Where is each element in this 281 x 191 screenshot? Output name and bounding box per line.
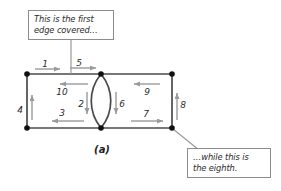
callout-first-edge: This is the first edge covered…: [28, 10, 114, 40]
panel-label: (a): [94, 144, 110, 155]
edge-label-5: 5: [76, 59, 82, 68]
edge-line-middle-left-arc: [91, 74, 101, 128]
edge-label-4: 4: [17, 106, 23, 115]
edge-label-6: 6: [119, 100, 125, 109]
graph-nodes: [24, 71, 175, 131]
edge-label-7: 7: [143, 110, 149, 119]
node-top-left: [24, 71, 30, 77]
edge-label-8: 8: [180, 101, 186, 110]
node-bottom-middle: [98, 125, 104, 131]
node-top-middle: [98, 71, 104, 77]
figure-diagram: 1 2 3 4 5 6 7 8 9 10 (a) This is the fir…: [0, 0, 281, 191]
node-bottom-left: [24, 125, 30, 131]
direction-arrows: [32, 68, 177, 121]
callout-leaders: [71, 39, 199, 150]
graph-edges: [27, 74, 172, 128]
edge-line-middle-right-arc: [101, 74, 111, 128]
edge-label-3: 3: [59, 109, 65, 118]
edge-label-2: 2: [78, 100, 84, 109]
node-top-right: [169, 71, 175, 77]
edge-label-10: 10: [56, 88, 67, 97]
edge-label-9: 9: [144, 88, 150, 97]
node-bottom-right: [169, 125, 175, 131]
edge-label-1: 1: [42, 60, 48, 69]
callout-eighth-edge: …while this is the eighth.: [187, 148, 271, 178]
callout-leader-eighth: [173, 129, 199, 150]
